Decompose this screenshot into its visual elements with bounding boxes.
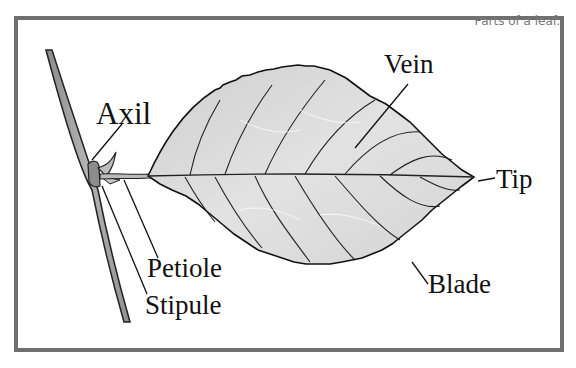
- label-vein: Vein: [384, 51, 434, 78]
- leaf-blade: [148, 65, 474, 264]
- label-axil: Axil: [96, 98, 151, 129]
- label-stipule: Stipule: [145, 292, 222, 319]
- figure-caption: Parts of a leaf.: [474, 14, 560, 28]
- stipule: [88, 152, 120, 187]
- leaf-illustration: [0, 0, 576, 368]
- label-blade: Blade: [428, 271, 491, 298]
- stem: [46, 50, 130, 322]
- label-petiole: Petiole: [147, 255, 222, 282]
- label-tip: Tip: [496, 166, 533, 193]
- petiole: [100, 174, 150, 179]
